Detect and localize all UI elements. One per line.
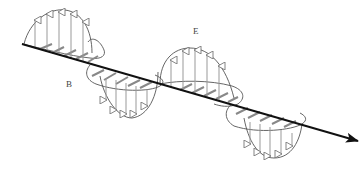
magnetic-field-label: B	[66, 79, 72, 89]
b-lobe-2	[87, 65, 163, 90]
e-arrows-2	[106, 78, 147, 114]
e-lobe-2	[100, 72, 158, 118]
electric-field-label: E	[193, 26, 199, 36]
b-arrows-1	[40, 44, 98, 62]
propagation-axis	[22, 44, 358, 141]
em-wave-svg	[0, 0, 360, 173]
em-wave-diagram: E B	[0, 0, 360, 173]
